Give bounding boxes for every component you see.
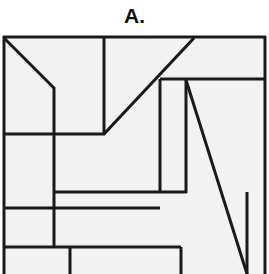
figure-container: A.	[0, 0, 269, 274]
panel-background	[4, 38, 265, 274]
partition-diagram	[0, 0, 269, 274]
